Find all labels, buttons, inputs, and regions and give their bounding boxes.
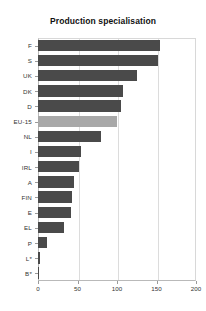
bar-row <box>38 175 196 190</box>
bar-row <box>38 114 196 129</box>
x-tick-mark-100 <box>117 281 118 284</box>
bar-row <box>38 144 196 159</box>
bar-row <box>38 266 196 281</box>
y-label-irl: IRL <box>0 160 34 175</box>
bar-row <box>38 205 196 220</box>
y-label-a: A <box>0 175 34 190</box>
bar-dk <box>38 85 123 96</box>
chart-container: Production specialisation FSUKDKDEU-15NL… <box>0 0 206 311</box>
y-label-f: F <box>0 38 34 53</box>
x-tick-mark-50 <box>78 281 79 284</box>
bar-series <box>38 38 196 281</box>
y-tick-mark <box>35 182 38 183</box>
y-label-dk: DK <box>0 84 34 99</box>
bar-eu-15 <box>38 116 117 127</box>
y-label-e: E <box>0 205 34 220</box>
y-tick-mark <box>35 46 38 47</box>
bar-row <box>38 68 196 83</box>
x-tick-mark-200 <box>196 281 197 284</box>
bar-row <box>38 160 196 175</box>
bar-el <box>38 222 64 233</box>
bar-row <box>38 129 196 144</box>
x-tick-label-150: 150 <box>151 285 161 292</box>
y-tick-mark <box>35 258 38 259</box>
y-tick-mark <box>35 137 38 138</box>
x-tick-label-0: 0 <box>36 285 39 292</box>
bar-i <box>38 146 81 157</box>
y-tick-mark <box>35 197 38 198</box>
y-tick-mark <box>35 61 38 62</box>
y-tick-mark <box>35 152 38 153</box>
bar-s <box>38 55 158 66</box>
bar-b- <box>38 267 39 278</box>
y-label-p: P <box>0 235 34 250</box>
y-axis-category-labels: FSUKDKDEU-15NLIIRLAFINEELPL*B* <box>0 38 34 281</box>
bar-row <box>38 235 196 250</box>
x-axis-ticks: 050100150200 <box>0 281 206 297</box>
bar-fin <box>38 191 72 202</box>
x-tick-label-100: 100 <box>112 285 122 292</box>
bar-row <box>38 99 196 114</box>
y-label-s: S <box>0 53 34 68</box>
bar-row <box>38 38 196 53</box>
y-tick-mark <box>35 273 38 274</box>
y-label-el: EL <box>0 220 34 235</box>
y-tick-mark <box>35 106 38 107</box>
y-tick-mark <box>35 91 38 92</box>
y-label-l-: L* <box>0 251 34 266</box>
y-label-nl: NL <box>0 129 34 144</box>
bar-p <box>38 237 47 248</box>
x-tick-label-50: 50 <box>74 285 81 292</box>
x-tick-mark-0 <box>38 281 39 284</box>
bar-row <box>38 190 196 205</box>
bar-irl <box>38 161 79 172</box>
bar-f <box>38 40 160 51</box>
bar-row <box>38 220 196 235</box>
y-tick-mark <box>35 76 38 77</box>
y-label-eu-15: EU-15 <box>0 114 34 129</box>
x-tick-mark-150 <box>157 281 158 284</box>
y-tick-mark <box>35 228 38 229</box>
bar-e <box>38 207 71 218</box>
y-label-fin: FIN <box>0 190 34 205</box>
y-label-b-: B* <box>0 266 34 281</box>
bar-nl <box>38 131 101 142</box>
chart-title: Production specialisation <box>0 16 206 26</box>
bar-row <box>38 84 196 99</box>
y-tick-mark <box>35 213 38 214</box>
bar-l- <box>38 252 40 263</box>
y-label-i: I <box>0 144 34 159</box>
y-label-d: D <box>0 99 34 114</box>
bar-a <box>38 176 74 187</box>
bar-row <box>38 53 196 68</box>
y-label-uk: UK <box>0 68 34 83</box>
y-tick-mark <box>35 122 38 123</box>
bar-d <box>38 100 121 111</box>
y-tick-mark <box>35 167 38 168</box>
y-tick-mark <box>35 243 38 244</box>
x-tick-label-200: 200 <box>191 285 201 292</box>
bar-uk <box>38 70 137 81</box>
bar-row <box>38 251 196 266</box>
